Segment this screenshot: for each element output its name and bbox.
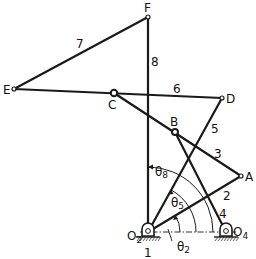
joint-b [172,129,178,135]
link-label-3: 3 [214,147,222,161]
label-b: B [170,115,178,129]
link-label-6: 6 [173,82,181,96]
link-7 [14,17,148,89]
link-label-1: 1 [144,246,152,259]
angle-label-theta8: θ8 [155,165,168,180]
joint-d [220,96,224,100]
link-label-7: 7 [76,37,84,51]
label-o2: O2 [127,229,142,245]
label-o4: O4 [233,225,248,241]
label-a: A [245,170,254,184]
joint-a [239,174,243,178]
label-f: F [144,1,151,15]
angle-label-theta2: θ2 [177,240,190,255]
theta2-leader [168,229,172,241]
joint-f [146,15,150,19]
link-label-4: 4 [219,207,227,221]
linkage-diagram: F E C D B A O2 O4 7 8 6 5 3 2 4 1 θ8 θ5 … [0,0,256,259]
label-c: C [108,98,116,112]
link-label-2: 2 [223,189,231,203]
link-label-8: 8 [151,55,159,69]
joint-e [12,87,16,91]
label-d: D [226,92,235,106]
label-e: E [3,83,11,97]
link-label-5: 5 [211,122,219,136]
joint-c [111,90,117,96]
